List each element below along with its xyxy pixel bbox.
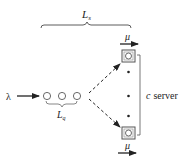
ellipsis-dots [127, 71, 130, 118]
server-top [122, 50, 135, 62]
service-rate-bottom-label: μ [124, 140, 130, 151]
system-length-brace [41, 22, 131, 28]
server-count-label: cserver [146, 90, 179, 101]
service-rate-top-label: μ [124, 31, 130, 42]
server-bottom [122, 127, 135, 139]
arrival-rate-label: λ [6, 91, 11, 102]
routing-arrow-bottom [89, 99, 120, 127]
queue-length-label: Lq [56, 109, 66, 121]
queueing-diagram: Ls μ cserver λ Lq μ [0, 0, 191, 164]
queue-length-brace [46, 101, 77, 107]
system-length-label: Ls [81, 8, 91, 22]
routing-arrow-top [89, 64, 120, 93]
queue-customers [43, 92, 80, 99]
